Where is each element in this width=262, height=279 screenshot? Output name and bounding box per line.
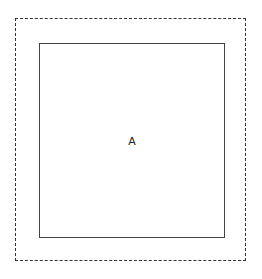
box-label: A bbox=[128, 135, 136, 148]
inner-box-a: A bbox=[39, 43, 225, 238]
